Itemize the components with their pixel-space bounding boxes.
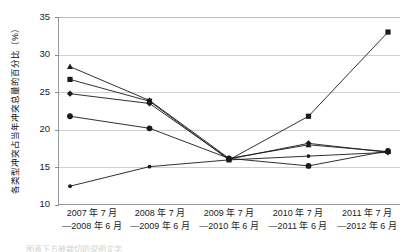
data-point bbox=[67, 91, 73, 97]
data-point bbox=[67, 64, 73, 69]
data-point bbox=[68, 184, 72, 188]
data-point bbox=[385, 29, 390, 34]
series-line bbox=[70, 67, 388, 159]
data-point bbox=[67, 77, 72, 82]
series-line bbox=[70, 32, 388, 160]
chart-figure: 各类型冲突占当年冲突总量的百分比（%） 35 30 25 20 15 10 20… bbox=[0, 0, 404, 252]
series-series-1 bbox=[67, 64, 391, 161]
data-point bbox=[148, 165, 152, 169]
x-tick-label: 2011 年 7 月 —2012 年 6 月 bbox=[299, 207, 404, 232]
cropped-caption: 图表下方被裁切的说明文字 bbox=[26, 245, 122, 252]
data-point bbox=[307, 154, 311, 158]
series-series-3 bbox=[67, 91, 391, 163]
data-point bbox=[147, 125, 153, 131]
data-point bbox=[67, 113, 73, 119]
series-series-2 bbox=[67, 29, 390, 162]
x-axis-tick-labels: 2007 年 7 月 —2008 年 6 月 2008 年 7 月 —2009 … bbox=[58, 207, 400, 247]
x-tick-label-line2: —2012 年 6 月 bbox=[299, 220, 404, 233]
data-point bbox=[306, 114, 311, 119]
data-point bbox=[306, 163, 312, 169]
data-point bbox=[227, 158, 231, 162]
series-line bbox=[70, 94, 388, 159]
data-point bbox=[386, 150, 390, 154]
x-tick-label-line1: 2011 年 7 月 bbox=[342, 208, 392, 218]
